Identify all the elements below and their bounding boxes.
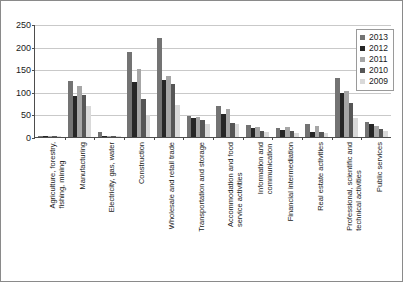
bar-2009 (383, 131, 388, 137)
bar-group (94, 25, 124, 137)
y-tick-label: 200 (16, 43, 31, 52)
bar-2009 (205, 124, 210, 137)
x-tick-mark (154, 137, 155, 140)
x-tick-mark (302, 137, 303, 140)
x-label-cell: Real estate activities (302, 142, 332, 280)
x-label-cell: Accommodation and foodservice activities (213, 142, 243, 280)
legend-item: 2012 (360, 43, 388, 54)
bar-group (124, 25, 154, 137)
bar-group (213, 25, 243, 137)
x-label-cell: Transportation and storage (183, 142, 213, 280)
bar-2009 (146, 115, 151, 137)
legend-item: 2013 (360, 32, 388, 43)
x-axis-label: Financial intermediation (287, 142, 296, 221)
bar-group (65, 25, 95, 137)
legend-label: 2012 (369, 44, 388, 53)
bar-2009 (294, 133, 299, 137)
x-tick-mark (183, 137, 184, 140)
legend-label: 2009 (369, 77, 388, 86)
bar-2009 (175, 105, 180, 137)
legend-label: 2013 (369, 33, 388, 42)
x-axis-label-line: Public services (376, 142, 385, 192)
x-tick-mark (213, 137, 214, 140)
x-tick-mark (332, 137, 333, 140)
x-axis-label: Manufacturing (79, 142, 88, 190)
bar-2009 (116, 136, 121, 137)
y-tick-label: 100 (16, 88, 31, 97)
legend: 20132012201120102009 (356, 29, 394, 91)
legend-swatch (360, 68, 365, 73)
x-axis-label-line: Transportation and storage (198, 142, 207, 232)
x-axis-label-line: Construction (138, 142, 147, 184)
bar-2009 (57, 136, 62, 137)
x-axis-label: Transportation and storage (198, 142, 207, 232)
bar-2009 (235, 124, 240, 137)
bar-group (154, 25, 184, 137)
x-label-cell: Financial intermediation (272, 142, 302, 280)
bar-group (35, 25, 65, 137)
x-tick-mark (65, 137, 66, 140)
x-tick-mark (361, 137, 362, 140)
bar-chart-figure: 050100150200250 Agriculture, forestry,fi… (0, 0, 403, 282)
x-axis-label-line: Manufacturing (79, 142, 88, 190)
x-axis-label-line: Financial intermediation (287, 142, 296, 221)
legend-item: 2010 (360, 65, 388, 76)
x-axis-label: Electricity, gas, water (108, 142, 117, 212)
y-tick-label: 250 (16, 21, 31, 30)
bar-2009 (353, 118, 358, 137)
legend-swatch (360, 35, 365, 40)
legend-item: 2011 (360, 54, 388, 65)
x-label-cell: Public services (361, 142, 391, 280)
bar-2009 (324, 133, 329, 137)
x-axis-label: Wholesale and retail trade (168, 142, 177, 229)
x-tick-mark (272, 137, 273, 140)
bar-2009 (264, 132, 269, 137)
x-tick-mark (124, 137, 125, 140)
x-axis-label: Construction (138, 142, 147, 184)
legend-item: 2009 (360, 76, 388, 87)
y-tick-label: 0 (26, 134, 31, 143)
x-axis-label: Real estate activities (317, 142, 326, 211)
bar-2009 (86, 106, 91, 137)
x-axis-labels: Agriculture, forestry,fishing, miningMan… (34, 142, 391, 280)
legend-swatch (360, 57, 365, 62)
y-tick-mark (32, 138, 35, 139)
x-label-cell: Information andcommunication (242, 142, 272, 280)
x-axis-label: Public services (376, 142, 385, 192)
plot-area: 050100150200250 (34, 25, 391, 138)
x-label-cell: Construction (123, 142, 153, 280)
legend-label: 2011 (369, 55, 387, 64)
legend-swatch (360, 79, 365, 84)
bar-group (183, 25, 213, 137)
bar-groups (35, 25, 391, 137)
y-tick-label: 150 (16, 66, 31, 75)
x-label-cell: Manufacturing (64, 142, 94, 280)
x-tick-mark (94, 137, 95, 140)
x-label-cell: Agriculture, forestry,fishing, mining (34, 142, 64, 280)
y-tick-label: 50 (21, 111, 31, 120)
bar-group (243, 25, 273, 137)
x-label-cell: Electricity, gas, water (94, 142, 124, 280)
legend-label: 2010 (369, 66, 388, 75)
x-axis-label-line: Real estate activities (317, 142, 326, 211)
bar-group (272, 25, 302, 137)
x-axis-label-line: Wholesale and retail trade (168, 142, 177, 229)
legend-swatch (360, 46, 365, 51)
x-label-cell: Wholesale and retail trade (153, 142, 183, 280)
x-label-cell: Professional, scientific andtechnical ac… (332, 142, 362, 280)
x-tick-mark (243, 137, 244, 140)
bar-group (302, 25, 332, 137)
x-axis-label-line: Electricity, gas, water (108, 142, 117, 212)
